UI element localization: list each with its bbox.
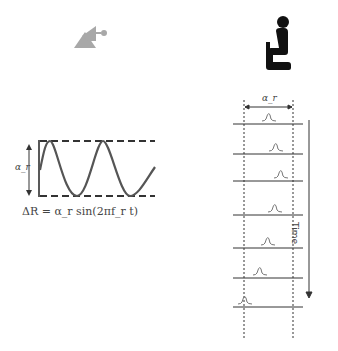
displacement-formula: ΔR = α_r sin(2πf_r t) bbox=[22, 205, 138, 218]
range-frames bbox=[233, 100, 312, 338]
wave-plot bbox=[26, 140, 155, 197]
seated-person-icon bbox=[266, 16, 291, 70]
diagram-canvas bbox=[0, 0, 338, 351]
radar-antenna-icon bbox=[74, 26, 107, 48]
time-axis-label: Time bbox=[290, 222, 300, 244]
range-label: α_r bbox=[262, 93, 277, 103]
amplitude-label: α_r bbox=[15, 162, 30, 172]
